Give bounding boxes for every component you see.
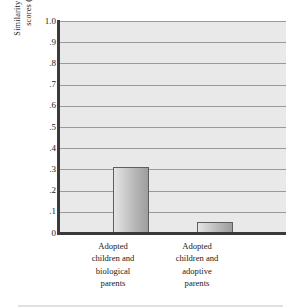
bar-adopted-biological-parents bbox=[113, 167, 149, 233]
y-tick-label-.8: .8 bbox=[34, 58, 56, 69]
x-axis-label-adopted-adoptive-parents: Adoptedchildren andadoptiveparents bbox=[145, 240, 249, 290]
y-tick-label-.1: .1 bbox=[34, 206, 56, 217]
y-tick-label-.4: .4 bbox=[34, 143, 56, 154]
y-tick-label-.3: .3 bbox=[34, 164, 56, 175]
gridline-.9 bbox=[60, 42, 286, 43]
gridline-.5 bbox=[60, 127, 286, 128]
caption-rule bbox=[18, 305, 283, 307]
gridline-.4 bbox=[60, 148, 286, 149]
y-axis-tick-labels: 1.0.9.8.7.6.5.4.3.2.10 bbox=[34, 16, 56, 240]
gridline-.3 bbox=[60, 169, 286, 170]
y-tick-label-.7: .7 bbox=[34, 79, 56, 90]
gridline-1.0 bbox=[60, 21, 286, 22]
gridline-.6 bbox=[60, 106, 286, 107]
gridline-.8 bbox=[60, 63, 286, 64]
x-axis-label-line-2: children and bbox=[145, 252, 249, 264]
y-axis-title: Similarity of intelligence scores (corre… bbox=[13, 0, 35, 70]
gridline-.1 bbox=[60, 212, 286, 213]
y-tick-label-.6: .6 bbox=[34, 100, 56, 111]
y-tick-label-1.0: 1.0 bbox=[34, 16, 56, 27]
plot-area bbox=[60, 21, 286, 233]
x-axis-label-line-3: adoptive bbox=[145, 265, 249, 277]
y-axis-title-line-1: Similarity of intelligence bbox=[13, 0, 24, 70]
x-axis-line bbox=[57, 232, 286, 235]
x-axis-label-line-1: Adopted bbox=[145, 240, 249, 252]
y-tick-label-.9: .9 bbox=[34, 37, 56, 48]
y-axis-title-line-2: scores (correlation) bbox=[24, 0, 35, 70]
y-tick-label-.5: .5 bbox=[34, 122, 56, 133]
bar-chart-figure: Similarity of intelligence scores (corre… bbox=[0, 0, 301, 308]
y-tick-label-.2: .2 bbox=[34, 185, 56, 196]
x-axis-label-line-4: parents bbox=[145, 277, 249, 289]
y-tick-label-0: 0 bbox=[34, 228, 56, 239]
gridline-.2 bbox=[60, 191, 286, 192]
gridline-.7 bbox=[60, 85, 286, 86]
